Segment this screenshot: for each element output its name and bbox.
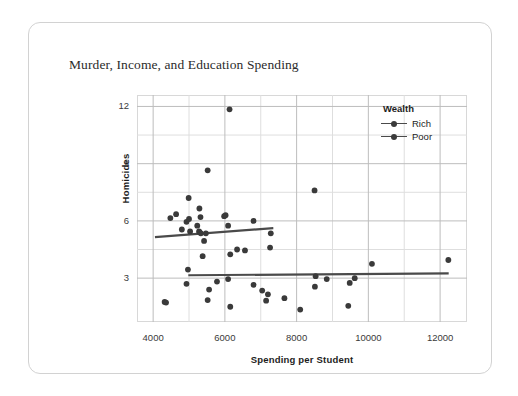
data-point [163, 300, 169, 306]
x-tick-label: 12000 [416, 332, 464, 343]
x-tick-label: 10000 [344, 332, 392, 343]
page-title: Murder, Income, and Education Spending [69, 57, 299, 73]
data-point [205, 297, 211, 303]
data-point [369, 261, 375, 267]
data-point [225, 223, 231, 229]
data-point [227, 106, 233, 112]
legend: Wealth RichPoor [381, 103, 467, 143]
data-point [214, 279, 220, 285]
data-point [198, 230, 204, 236]
data-point [297, 307, 303, 313]
data-point [186, 195, 192, 201]
data-point [352, 275, 358, 281]
data-point [179, 227, 185, 233]
legend-item-label: Poor [407, 131, 432, 142]
y-tick-label: 3 [105, 272, 129, 283]
data-point [198, 214, 204, 220]
data-point [324, 276, 330, 282]
x-axis-title: Spending per Student [137, 354, 467, 365]
data-point [225, 276, 231, 282]
data-point [312, 284, 318, 290]
data-point [242, 248, 248, 254]
data-point [184, 281, 190, 287]
data-point [313, 273, 319, 279]
data-point [312, 187, 318, 193]
data-point [268, 230, 274, 236]
y-axis-title: Homicides [120, 139, 131, 219]
legend-marker-icon [381, 131, 407, 142]
data-point [445, 257, 451, 263]
data-point [203, 230, 209, 236]
data-point [186, 216, 192, 222]
data-point [259, 288, 265, 294]
data-point [194, 223, 200, 229]
data-point [205, 167, 211, 173]
legend-marker-icon [381, 118, 407, 129]
data-point [251, 282, 257, 288]
x-tick-label: 4000 [129, 332, 177, 343]
data-point [265, 291, 271, 297]
legend-item-rich[interactable]: Rich [381, 117, 467, 130]
y-tick-label: 12 [105, 100, 129, 111]
x-tick-label: 8000 [273, 332, 321, 343]
data-point [282, 295, 288, 301]
x-tick-label: 6000 [201, 332, 249, 343]
data-point [187, 228, 193, 234]
data-point [206, 287, 212, 293]
chart-screenshot: Murder, Income, and Education Spending H… [0, 0, 518, 396]
data-point [201, 238, 207, 244]
legend-entries: RichPoor [381, 117, 467, 143]
legend-item-label: Rich [407, 118, 431, 129]
y-tick-label: 6 [105, 215, 129, 226]
data-point [197, 206, 203, 212]
data-point [227, 251, 233, 257]
data-point [167, 215, 173, 221]
data-point [345, 303, 351, 309]
data-point [347, 280, 353, 286]
legend-item-poor[interactable]: Poor [381, 130, 467, 143]
data-point [267, 245, 273, 251]
data-point [234, 247, 240, 253]
chart-card: Murder, Income, and Education Spending H… [28, 22, 492, 374]
legend-title: Wealth [381, 103, 467, 114]
y-tick-label: 9 [105, 158, 129, 169]
data-point [251, 218, 257, 224]
data-point [185, 267, 191, 273]
data-point [173, 211, 179, 217]
data-point [227, 304, 233, 310]
data-point [263, 298, 269, 304]
data-point [200, 253, 206, 259]
data-point [223, 212, 229, 218]
